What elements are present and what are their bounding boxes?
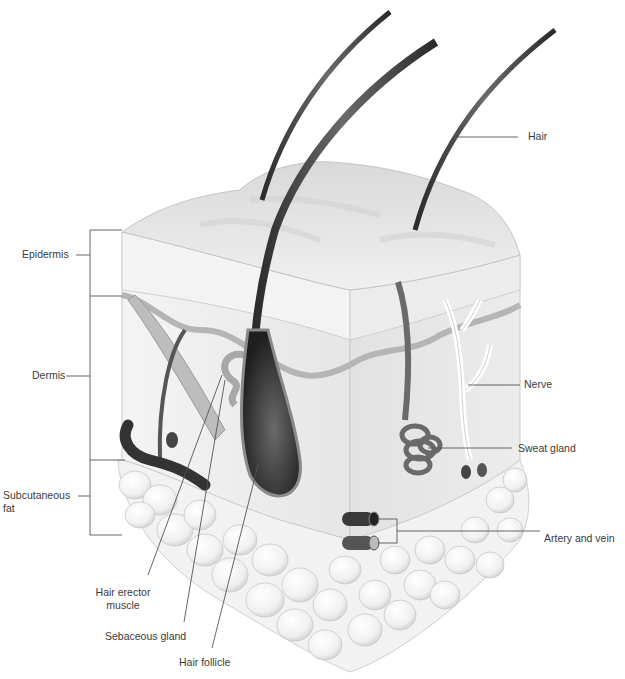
label-sweat-gland: Sweat gland bbox=[518, 442, 576, 455]
label-subcutaneous-fat-line2: fat bbox=[3, 502, 15, 515]
label-epidermis: Epidermis bbox=[22, 248, 69, 261]
label-artery-and-vein: Artery and vein bbox=[544, 532, 615, 545]
label-subcutaneous-fat-line1: Subcutaneous bbox=[3, 489, 70, 502]
label-nerve: Nerve bbox=[524, 378, 552, 391]
label-dermis: Dermis bbox=[32, 369, 65, 382]
label-hair: Hair bbox=[528, 130, 547, 143]
label-sebaceous-gland: Sebaceous gland bbox=[105, 630, 186, 643]
label-hair-follicle: Hair follicle bbox=[179, 656, 230, 669]
label-hair-erector-muscle-line2: muscle bbox=[84, 599, 162, 612]
label-hair-erector-muscle-line1: Hair erector bbox=[84, 586, 162, 599]
skin-cross-section-illustration bbox=[0, 0, 625, 679]
